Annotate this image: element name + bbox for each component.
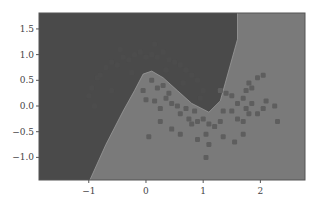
y-axis: −1.0−0.50.00.51.01.5 [12, 24, 39, 162]
data-point [261, 106, 266, 111]
data-point [235, 101, 240, 106]
data-point [92, 104, 97, 109]
data-point [175, 104, 180, 109]
data-point [272, 104, 277, 109]
data-point [109, 60, 114, 65]
data-point [192, 109, 197, 114]
data-point [152, 98, 157, 103]
data-point [164, 96, 169, 101]
data-point [184, 106, 189, 111]
data-point [178, 111, 183, 116]
data-point [241, 132, 246, 137]
data-point [98, 73, 103, 78]
data-point [206, 122, 211, 127]
x-tick-label: 0 [143, 186, 149, 196]
data-point [264, 98, 269, 103]
data-point [152, 42, 157, 47]
data-point [178, 62, 183, 67]
data-point [184, 68, 189, 73]
data-point [126, 57, 131, 62]
data-point [166, 91, 171, 96]
data-point [229, 93, 234, 98]
data-point [198, 96, 203, 101]
data-point [89, 86, 94, 91]
data-point [275, 119, 280, 124]
y-tick-label: 1.0 [20, 50, 35, 60]
data-point [161, 50, 166, 55]
data-point [166, 57, 171, 62]
data-point [169, 127, 174, 132]
data-point [246, 111, 251, 116]
data-point [164, 68, 169, 73]
data-point [149, 52, 154, 57]
data-point [204, 132, 209, 137]
data-point [144, 55, 149, 60]
data-point [129, 70, 134, 75]
y-tick-label: 0.5 [20, 75, 35, 85]
data-point [221, 134, 226, 139]
data-point [118, 47, 123, 52]
data-point [109, 88, 114, 93]
y-tick-label: −0.5 [12, 127, 34, 137]
data-point [204, 155, 209, 160]
data-point [189, 122, 194, 127]
data-point [169, 101, 174, 106]
data-point [186, 116, 191, 121]
data-point [155, 86, 160, 91]
y-tick-label: 0.0 [20, 101, 35, 111]
data-point [218, 119, 223, 124]
data-point [146, 134, 151, 139]
data-point [235, 116, 240, 121]
data-point [221, 109, 226, 114]
data-point [241, 119, 246, 124]
data-point [161, 83, 166, 88]
data-point [224, 91, 229, 96]
data-point [155, 55, 160, 60]
data-point [181, 80, 186, 85]
data-point [229, 109, 234, 114]
x-tick-label: 1 [200, 186, 206, 196]
data-point [195, 78, 200, 83]
data-point [249, 86, 254, 91]
data-point [138, 50, 143, 55]
data-point [241, 96, 246, 101]
data-point [249, 101, 254, 106]
data-point [232, 140, 237, 145]
data-point [244, 88, 249, 93]
data-point [244, 106, 249, 111]
data-point [255, 75, 260, 80]
data-point [144, 97, 149, 102]
data-point [201, 88, 206, 93]
data-point [195, 137, 200, 142]
data-point [103, 65, 108, 70]
data-point [246, 80, 251, 85]
data-point [255, 111, 260, 116]
y-tick-label: −1.0 [12, 152, 34, 162]
x-tick-label: −1 [82, 186, 95, 196]
x-tick-label: 2 [258, 186, 264, 196]
data-point [218, 88, 223, 93]
data-point [261, 73, 266, 78]
data-point [132, 52, 137, 57]
data-point [158, 119, 163, 124]
plot-area [39, 8, 310, 185]
data-point [178, 132, 183, 137]
data-point [86, 93, 91, 98]
data-point [195, 119, 200, 124]
data-point [189, 73, 194, 78]
data-point [121, 55, 126, 60]
data-point [212, 124, 217, 129]
decision-boundary-chart: −1012 −1.0−0.50.00.51.01.5 [0, 0, 319, 209]
y-tick-label: 1.5 [20, 24, 35, 34]
data-point [115, 62, 120, 67]
data-point [141, 88, 146, 93]
x-axis: −1012 [82, 180, 263, 196]
data-point [158, 106, 163, 111]
data-point [149, 78, 154, 83]
data-point [201, 116, 206, 121]
data-point [206, 142, 211, 147]
data-point [172, 60, 177, 65]
